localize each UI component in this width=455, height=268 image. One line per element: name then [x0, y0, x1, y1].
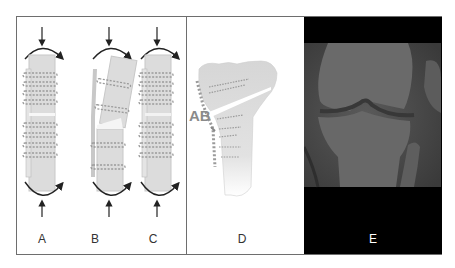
panel-label-e: E: [363, 232, 383, 246]
annotation-ab: AB: [189, 107, 211, 124]
panel-c-diagram: [139, 27, 177, 217]
panel-e: E: [304, 17, 442, 254]
panel-label-b: B: [85, 232, 105, 246]
bone-plate-diagrams: [17, 17, 186, 254]
panel-label-d: D: [232, 232, 252, 246]
panel-a-diagram: [23, 27, 61, 217]
panel-b-diagram: [91, 27, 137, 217]
knee-xray: [304, 17, 442, 254]
panel-d: AB D: [187, 17, 304, 254]
tibia-osteotomy-illustration: [187, 17, 304, 254]
panel-label-c: C: [143, 232, 163, 246]
panel-abc: A B C: [17, 17, 186, 254]
panel-label-a: A: [32, 232, 52, 246]
